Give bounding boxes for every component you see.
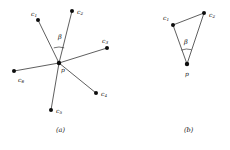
vertex-a-c5 (49, 108, 53, 112)
edge-a-p-c3 (59, 48, 107, 63)
vertex-a-c2 (70, 9, 74, 13)
label-a-c2: c2 (77, 9, 83, 15)
vertex-b-p (185, 62, 189, 66)
label-a-c5: c5 (56, 108, 62, 114)
label-a-c4: c4 (101, 91, 107, 97)
edge-b-c1-c2 (173, 13, 204, 25)
label-a-c1: c1 (31, 11, 37, 17)
angle-arc-b (181, 49, 191, 50)
vertex-b-c1 (171, 23, 175, 27)
figure-container: pc1c2c3c4c5c6β(a)pc1c2β(b) (0, 0, 230, 150)
caption-panel-b: (b) (184, 127, 193, 134)
vertex-a-c6 (12, 69, 16, 73)
vertex-a-p (57, 61, 61, 65)
vertex-a-c3 (105, 46, 109, 50)
label-a-c3: c3 (102, 38, 108, 44)
label-a-p: p (61, 67, 65, 73)
vertex-a-c4 (94, 91, 98, 95)
edge-a-p-c6 (14, 63, 59, 71)
edge-a-p-c5 (51, 63, 59, 110)
label-b-c2: c2 (209, 12, 215, 18)
edge-a-p-c1 (38, 20, 59, 63)
vertex-b-c2 (202, 11, 206, 15)
label-b-p: p (185, 71, 189, 77)
figure-graphics (0, 0, 230, 150)
label-a-beta: β (58, 34, 62, 41)
label-b-beta: β (184, 39, 188, 46)
caption-panel-a: (a) (56, 127, 65, 134)
edge-b-p-c2 (187, 13, 204, 64)
label-a-c6: c6 (18, 77, 24, 83)
vertex-a-c1 (36, 18, 40, 22)
label-b-c1: c1 (163, 15, 169, 21)
